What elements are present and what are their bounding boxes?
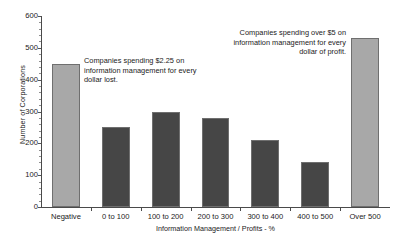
y-axis-tick-label: 400 bbox=[12, 76, 38, 84]
x-axis-separator bbox=[240, 207, 241, 211]
x-axis-separator bbox=[141, 207, 142, 211]
annotation-negative-bar: Companies spending $2.25 on information … bbox=[84, 56, 214, 85]
x-axis-tick-label: Negative bbox=[41, 212, 91, 221]
x-axis-separator bbox=[290, 207, 291, 211]
x-axis-tick-label: 0 to 100 bbox=[91, 212, 141, 221]
x-axis-separator bbox=[340, 207, 341, 211]
x-axis-tick-label: Over 500 bbox=[340, 212, 390, 221]
y-axis-tick-label: 500 bbox=[12, 44, 38, 52]
bar-chart: Number of Corporations 01002003004005006… bbox=[0, 0, 408, 238]
bar-100-to-200 bbox=[152, 112, 180, 208]
bar-0-to-100 bbox=[102, 127, 130, 207]
bar-200-to-300 bbox=[202, 118, 230, 207]
x-axis-separator bbox=[91, 207, 92, 211]
bar-negative bbox=[52, 64, 80, 207]
annotation-over-500-bar: Companies spending over $5 on informatio… bbox=[224, 28, 346, 57]
x-axis-title: Information Management / Profits - % bbox=[41, 224, 390, 233]
y-axis-tick-labels: 0100200300400500600 bbox=[8, 0, 38, 238]
bar-over-500 bbox=[351, 38, 379, 207]
y-axis-tick-label: 0 bbox=[12, 203, 38, 211]
bar-300-to-400 bbox=[251, 140, 279, 207]
bar-400-to-500 bbox=[301, 162, 329, 207]
x-axis-tick-label: 400 to 500 bbox=[290, 212, 340, 221]
x-axis-tick-label: 300 to 400 bbox=[240, 212, 290, 221]
x-axis-line bbox=[41, 207, 390, 208]
x-axis-tick-label: 200 to 300 bbox=[191, 212, 241, 221]
y-axis-tick-label: 300 bbox=[12, 108, 38, 116]
y-axis-tick-label: 200 bbox=[12, 139, 38, 147]
y-axis-tick-label: 600 bbox=[12, 12, 38, 20]
y-axis-tick-label: 100 bbox=[12, 171, 38, 179]
x-axis-separator bbox=[191, 207, 192, 211]
x-axis-tick-label: 100 to 200 bbox=[141, 212, 191, 221]
